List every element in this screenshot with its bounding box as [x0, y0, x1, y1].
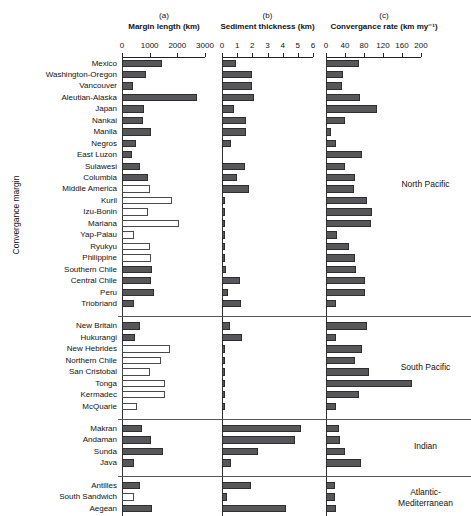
bar — [222, 163, 245, 170]
x-tick — [268, 53, 269, 57]
bar — [326, 243, 349, 250]
bar — [326, 436, 340, 443]
category-label: East Luzon — [77, 150, 117, 159]
bar — [122, 105, 144, 112]
bar — [222, 128, 246, 135]
bar — [326, 231, 337, 238]
panel-a-title: Margin length (km) — [118, 21, 210, 32]
category-label: Negros — [91, 139, 117, 148]
panel-c-letter: (c) — [320, 10, 448, 21]
category-label: Northern Chile — [65, 356, 117, 365]
group-label: South Pacific — [380, 362, 471, 373]
bar — [122, 459, 134, 466]
category-label: South Sandwich — [59, 492, 117, 501]
bar — [122, 482, 140, 489]
panel-c-title: Convergance rate (km my⁻¹) — [320, 21, 448, 32]
bar — [122, 94, 197, 101]
category-label: Tonga — [95, 379, 117, 388]
category-label: Peru — [100, 288, 117, 297]
group-separator — [118, 476, 471, 477]
category-label: Ryukyu — [90, 242, 117, 251]
bar — [222, 243, 225, 250]
category-label: Central Chile — [71, 276, 117, 285]
x-tick — [383, 53, 384, 57]
bar — [222, 277, 240, 284]
bar — [122, 117, 143, 124]
category-label: Mariana — [88, 219, 117, 228]
bar — [326, 380, 412, 387]
category-label: Sunda — [94, 447, 117, 456]
bar — [122, 357, 161, 364]
bar — [222, 403, 225, 410]
bar — [222, 94, 254, 101]
bar — [326, 266, 356, 273]
bar — [326, 277, 365, 284]
category-label: Izu-Bonin — [83, 207, 117, 216]
bar — [222, 459, 231, 466]
bar — [222, 334, 242, 341]
bar — [122, 128, 151, 135]
bar — [326, 391, 359, 398]
category-label: Yap-Palau — [80, 230, 117, 239]
bar — [122, 493, 134, 500]
bar — [122, 254, 151, 261]
bar — [222, 71, 252, 78]
bar — [122, 277, 151, 284]
category-label: Kermadec — [81, 390, 117, 399]
bar — [326, 60, 359, 67]
bar — [122, 322, 140, 329]
bar — [122, 345, 170, 352]
group-separator — [118, 316, 471, 317]
bar — [222, 380, 225, 387]
bar — [326, 163, 345, 170]
bar — [222, 436, 295, 443]
bar — [326, 459, 361, 466]
category-label: Vancouver — [79, 81, 117, 90]
bar — [222, 220, 225, 227]
x-tick — [421, 53, 422, 57]
category-label: Mexico — [92, 59, 117, 68]
category-label: Triobriand — [81, 299, 117, 308]
bar — [122, 174, 148, 181]
bar — [122, 60, 162, 67]
bar — [326, 128, 331, 135]
category-label: Philippine — [82, 253, 117, 262]
bar — [122, 185, 150, 192]
bar — [222, 322, 230, 329]
panel-b-title: Sediment thickness (km) — [215, 21, 320, 32]
bar — [222, 391, 225, 398]
x-axis-line-sediment_thickness — [222, 57, 313, 58]
bar — [222, 493, 227, 500]
x-tick — [150, 53, 151, 57]
bar — [222, 266, 226, 273]
x-axis-line-convergance_rate — [326, 57, 421, 58]
bar — [122, 140, 136, 147]
category-label: Middle America — [62, 184, 117, 193]
bar — [122, 243, 150, 250]
category-label: Nankai — [92, 116, 117, 125]
bar — [326, 322, 367, 329]
bar — [122, 231, 134, 238]
bar — [326, 448, 345, 455]
x-tick — [345, 53, 346, 57]
bar — [326, 185, 354, 192]
bar — [122, 380, 165, 387]
bar — [122, 300, 134, 307]
category-label: Columbia — [83, 173, 117, 182]
y-axis-title: Convergance margin — [11, 155, 21, 275]
category-label: Andaman — [83, 435, 117, 444]
bar — [222, 140, 231, 147]
bar — [222, 368, 225, 375]
category-label: Hukurangi — [81, 333, 117, 342]
bar — [222, 185, 249, 192]
bar — [326, 403, 336, 410]
bar — [222, 448, 258, 455]
bar — [222, 208, 225, 215]
bar — [326, 368, 369, 375]
category-label: Japan — [95, 104, 117, 113]
bar — [326, 482, 335, 489]
bar — [122, 82, 133, 89]
category-label: McQuarie — [82, 402, 117, 411]
x-tick — [237, 53, 238, 57]
